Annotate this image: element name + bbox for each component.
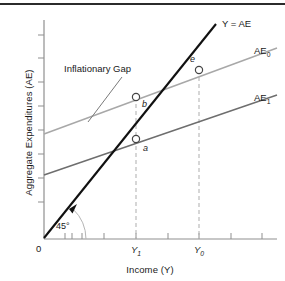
point-e-marker — [195, 66, 202, 73]
point-e-label: e — [190, 54, 195, 64]
x-axis-title: Income (Y) — [95, 264, 205, 275]
x-axis-ticks — [65, 233, 262, 239]
point-a-marker — [132, 135, 139, 142]
point-b-label: b — [142, 99, 147, 109]
inflationary-gap-leader-line — [88, 77, 122, 122]
y-axis-ticks — [38, 35, 44, 202]
ae0-curve — [44, 48, 277, 134]
angle-label: 45° — [56, 221, 70, 231]
origin-label: 0 — [36, 243, 41, 254]
plot-area: Y = AE AE0 AE1 e b a Inflationary Gap 45… — [0, 0, 285, 281]
inflationary-gap-label: Inflationary Gap — [64, 63, 131, 74]
point-b-marker — [132, 93, 139, 100]
ae1-curve — [44, 95, 277, 175]
y-axis-title: Aggregate Expenditures (AE) — [23, 33, 34, 233]
forty-five-degree-line-label: Y = AE — [222, 18, 251, 29]
ae0-curve-label: AE0 — [254, 45, 271, 58]
x-tick-label-y1: Y1 — [131, 244, 141, 257]
inflationary-gap-chart: Y = AE AE0 AE1 e b a Inflationary Gap 45… — [0, 0, 285, 281]
angle-arc — [73, 209, 86, 239]
x-tick-label-y0: Y0 — [194, 244, 204, 257]
ae1-curve-label: AE1 — [254, 92, 271, 105]
point-a-label: a — [143, 143, 148, 153]
